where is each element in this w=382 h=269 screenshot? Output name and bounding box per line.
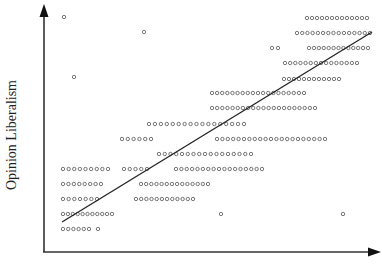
data-point [226,152,229,155]
x-axis-arrow-icon [368,248,381,257]
data-point [332,77,335,80]
data-point [210,91,213,94]
data-point [203,152,206,155]
data-point [246,91,249,94]
data-point [236,106,239,109]
data-point [207,122,210,125]
data-point [153,122,156,125]
data-point [295,31,298,34]
data-point [207,167,210,170]
data-point [332,46,335,49]
data-point [355,16,358,19]
data-point [320,16,323,19]
data-point [215,106,218,109]
data-point [163,152,166,155]
data-point [244,152,247,155]
data-point [360,16,363,19]
data-point [165,197,168,200]
data-point [232,152,235,155]
data-point [150,197,153,200]
data-point [299,61,302,64]
data-point [301,31,304,34]
data-point [236,122,239,125]
data-point [365,16,368,19]
data-point [67,182,70,185]
data-point [212,167,215,170]
data-point [321,31,324,34]
data-point [160,182,163,185]
data-point [345,61,348,64]
data-point [221,106,224,109]
data-point [251,91,254,94]
data-point [293,106,296,109]
data-point [238,152,241,155]
data-point [287,77,290,80]
data-point [340,16,343,19]
data-point [253,137,256,140]
data-point [191,182,194,185]
data-point [322,46,325,49]
data-point [315,16,318,19]
data-point [149,137,152,140]
data-point [217,167,220,170]
data-point [72,75,75,78]
data-point [226,91,229,94]
data-point [283,61,286,64]
data-point [101,212,104,215]
data-point [201,167,204,170]
data-point [61,227,64,230]
data-point [84,167,87,170]
data-point [174,167,177,170]
data-point [241,91,244,94]
data-point [358,31,361,34]
data-point [147,122,150,125]
data-point [61,167,64,170]
data-point [191,197,194,200]
data-point [88,182,91,185]
data-point [213,122,216,125]
data-point [221,137,224,140]
data-point [91,212,94,215]
data-point [318,137,321,140]
data-point [294,61,297,64]
data-point [176,197,179,200]
data-point [175,182,178,185]
data-point [122,167,125,170]
data-point [277,106,280,109]
data-point [157,152,160,155]
data-point [171,197,174,200]
data-point [347,31,350,34]
data-point [150,182,153,185]
data-point [233,167,236,170]
data-point [277,91,280,94]
x-axis [43,248,381,257]
data-point [215,137,218,140]
data-point [181,182,184,185]
data-point [239,167,242,170]
data-point [96,227,99,230]
data-point [126,137,129,140]
data-point [189,122,192,125]
data-point [255,167,258,170]
data-point [302,91,305,94]
y-axis-arrow-icon [40,4,49,17]
data-point [94,182,97,185]
data-point [221,152,224,155]
data-point [298,106,301,109]
data-point [316,31,319,34]
data-point [303,106,306,109]
data-point [305,16,308,19]
data-point [261,91,264,94]
data-point [259,137,262,140]
data-point [286,137,289,140]
data-point [232,137,235,140]
data-point [84,197,87,200]
data-point [87,227,90,230]
data-point [257,106,260,109]
data-point [252,106,255,109]
data-point [256,91,259,94]
data-point [276,46,279,49]
data-point [67,197,70,200]
data-point [186,152,189,155]
data-point [73,167,76,170]
